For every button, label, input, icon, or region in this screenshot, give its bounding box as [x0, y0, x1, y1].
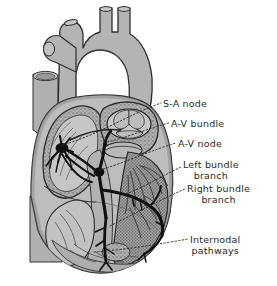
heart-conduction-diagram: S-A node A-V bundle A-V node Left bundle…: [0, 0, 277, 286]
label-av-bundle-text: A-V bundle: [171, 118, 224, 129]
label-av-bundle: A-V bundle: [171, 119, 224, 130]
label-internodal-line2: pathways: [190, 246, 240, 257]
label-left-bundle-line2: branch: [183, 171, 239, 182]
label-right-bundle-line2: branch: [187, 195, 250, 206]
label-right-bundle-line1: Right bundle: [187, 184, 250, 195]
label-right-bundle-branch: Right bundle branch: [187, 184, 250, 205]
label-sa-node: S-A node: [163, 99, 207, 110]
label-left-bundle-line1: Left bundle: [183, 160, 239, 171]
label-av-node-text: A-V node: [178, 138, 222, 149]
label-sa-node-text: S-A node: [163, 98, 207, 109]
label-left-bundle-branch: Left bundle branch: [183, 160, 239, 181]
label-internodal-line1: Internodal: [190, 235, 240, 246]
label-internodal-pathways: Internodal pathways: [190, 235, 240, 256]
label-av-node: A-V node: [178, 139, 222, 150]
